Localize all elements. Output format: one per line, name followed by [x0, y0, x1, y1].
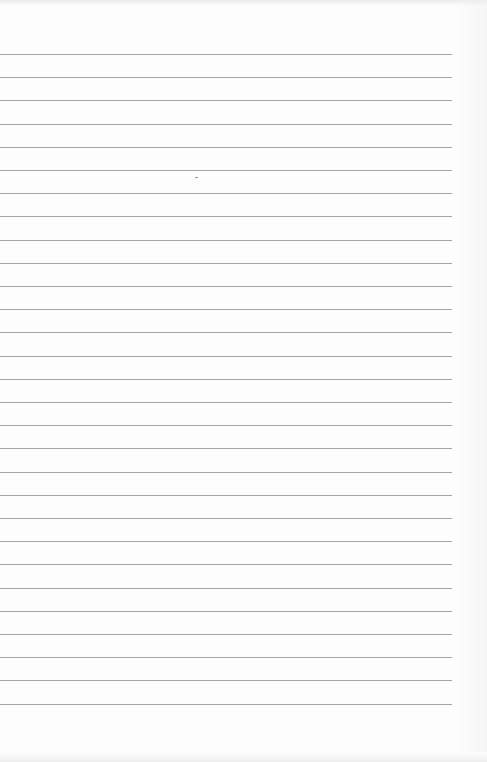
paper-speck [195, 177, 198, 178]
ruled-line [0, 286, 452, 287]
ruled-line [0, 448, 452, 449]
ruled-line [0, 332, 452, 333]
ruled-line [0, 564, 452, 565]
ruled-line [0, 193, 452, 194]
ruled-line [0, 124, 452, 125]
ruled-line [0, 147, 452, 148]
ruled-line [0, 495, 452, 496]
ruled-line [0, 704, 452, 705]
ruled-line [0, 54, 452, 55]
ruled-line [0, 518, 452, 519]
ruled-line [0, 100, 452, 101]
lined-paper-page [0, 0, 487, 762]
ruled-line [0, 216, 452, 217]
ruled-line [0, 657, 452, 658]
top-edge-shadow [0, 0, 487, 6]
right-edge-shadow [457, 0, 487, 762]
ruled-line [0, 240, 452, 241]
ruled-line [0, 170, 452, 171]
ruled-line [0, 680, 452, 681]
ruled-line [0, 402, 452, 403]
ruled-line [0, 77, 452, 78]
ruled-line [0, 588, 452, 589]
ruled-line [0, 634, 452, 635]
ruled-line [0, 263, 452, 264]
ruled-line [0, 472, 452, 473]
ruled-line [0, 611, 452, 612]
ruled-line [0, 379, 452, 380]
ruled-line [0, 309, 452, 310]
ruled-line [0, 356, 452, 357]
ruled-line [0, 425, 452, 426]
ruled-line [0, 541, 452, 542]
bottom-edge-shadow [0, 752, 487, 762]
